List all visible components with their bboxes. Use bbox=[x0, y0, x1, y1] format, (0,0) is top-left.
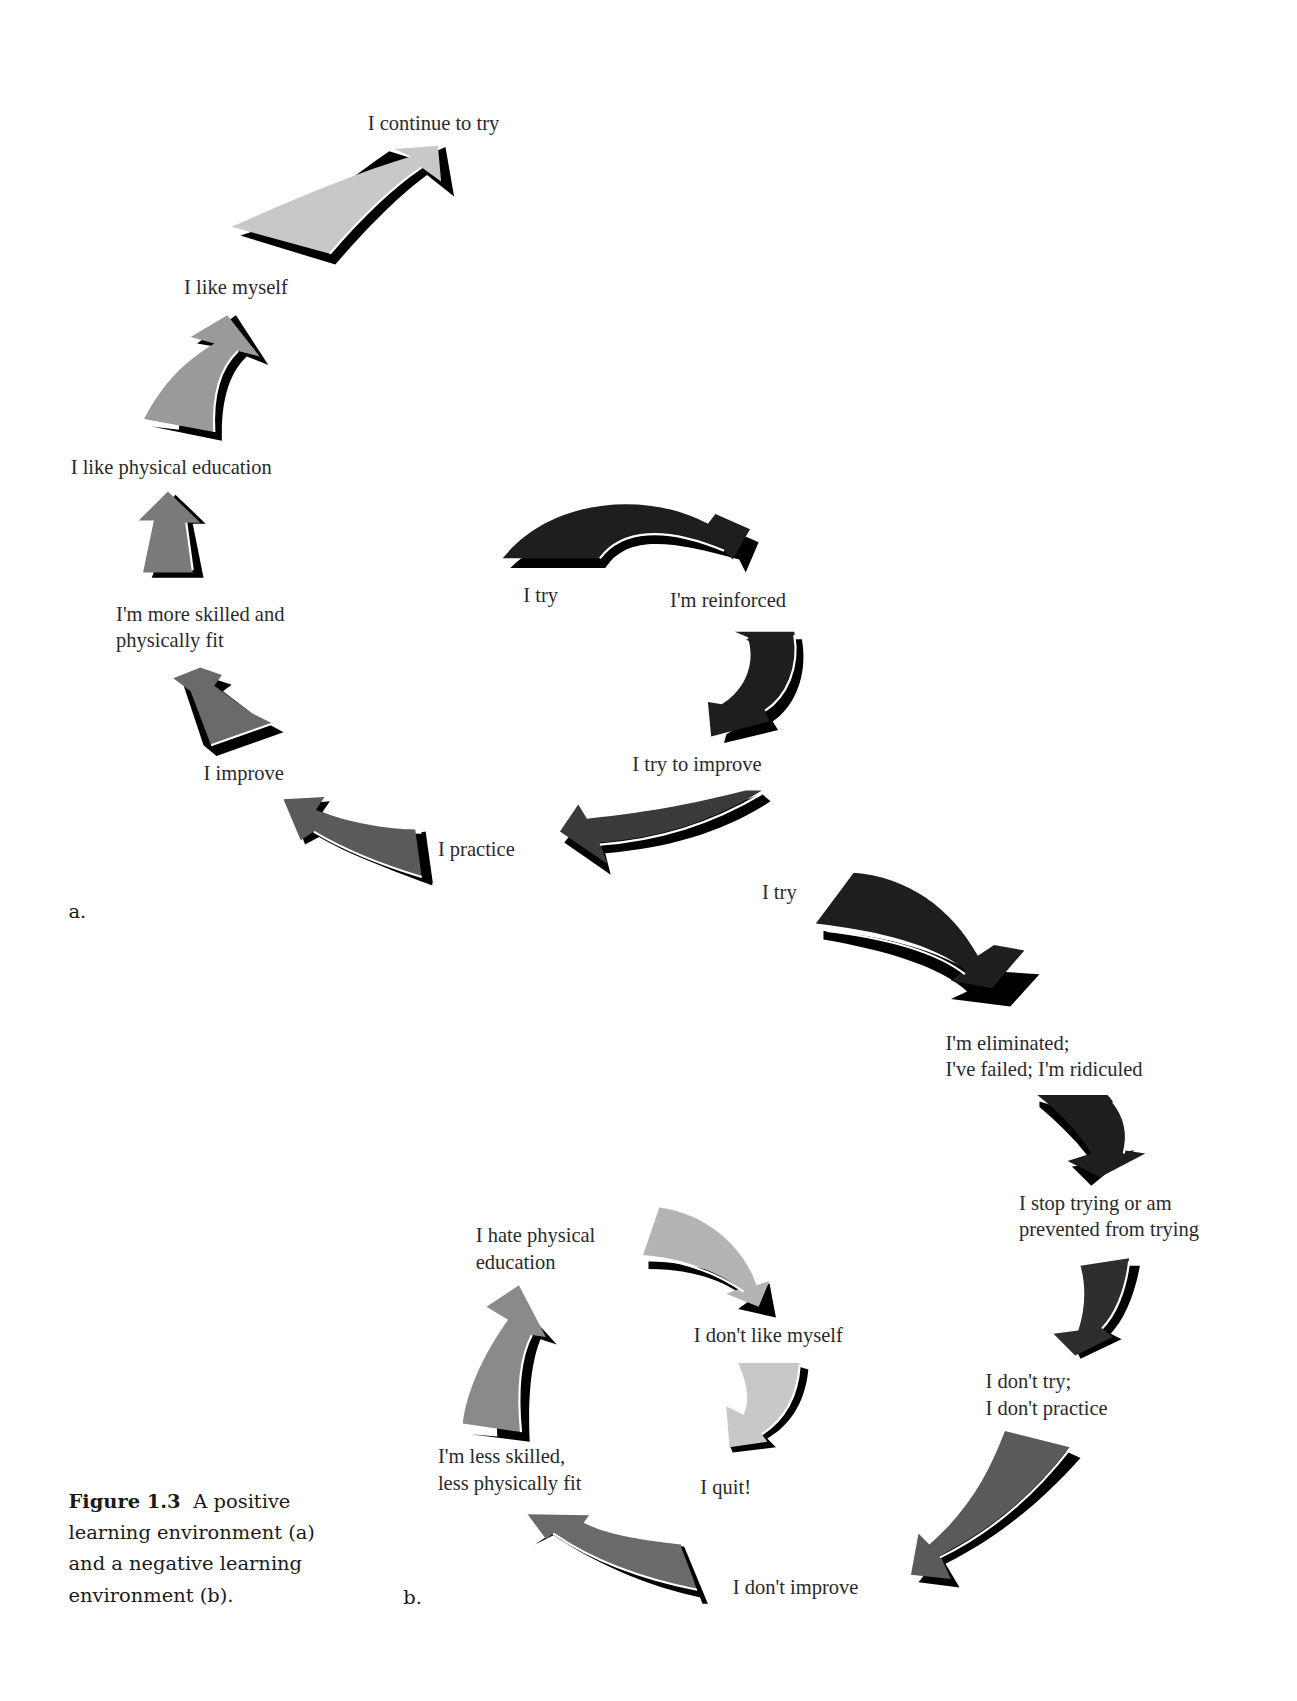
label-a-like-pe: I like physical education bbox=[71, 456, 272, 479]
figure-number: Figure 1.3 bbox=[69, 1490, 181, 1513]
label-b-stop-1: I stop trying or am bbox=[1019, 1192, 1172, 1215]
label-b-less-skilled-2: less physically fit bbox=[438, 1472, 582, 1495]
arrow-try-improve-to-practice bbox=[560, 791, 771, 875]
arrow-like-myself-to-continue bbox=[232, 146, 454, 265]
label-b-dont-try-1: I don't try; bbox=[985, 1370, 1071, 1393]
arrow-improve-to-skilled bbox=[173, 667, 283, 756]
panel-b: I try I'm eliminated; I've failed; I'm r… bbox=[403, 873, 1199, 1609]
arrow-stop-to-dont-try bbox=[1054, 1258, 1140, 1358]
label-a-like-myself: I like myself bbox=[184, 276, 288, 299]
label-b-dont-improve: I don't improve bbox=[733, 1576, 859, 1599]
arrow-dont-improve-to-less-skilled bbox=[528, 1514, 708, 1604]
arrow-try-to-reinforced bbox=[503, 504, 759, 572]
label-b-less-skilled-1: I'm less skilled, bbox=[438, 1445, 565, 1467]
label-b-dont-like-myself: I don't like myself bbox=[694, 1324, 843, 1347]
arrow-like-pe-to-like-myself bbox=[144, 315, 268, 440]
arrow-try-to-eliminated bbox=[816, 873, 1040, 1007]
arrow-less-skilled-to-hate-pe bbox=[463, 1285, 557, 1442]
arrow-practice-to-improve bbox=[283, 797, 432, 886]
caption-line-4: environment (b). bbox=[69, 1584, 234, 1607]
label-a-try-to-improve: I try to improve bbox=[632, 753, 761, 776]
label-a-improve: I improve bbox=[204, 762, 284, 785]
arrow-eliminated-to-stop bbox=[1037, 1095, 1145, 1186]
label-a-try: I try bbox=[523, 584, 558, 607]
label-b-eliminated-2: I've failed; I'm ridiculed bbox=[946, 1058, 1143, 1080]
panel-a: I continue to try I like myself I like p… bbox=[69, 112, 804, 923]
arrow-reinforced-to-try-improve bbox=[708, 632, 804, 743]
label-b-stop-2: prevented from trying bbox=[1019, 1218, 1199, 1241]
label-a-more-skilled-2: physically fit bbox=[116, 629, 224, 652]
caption-text-1: A positive bbox=[192, 1490, 290, 1513]
label-b-hate-pe-2: education bbox=[476, 1251, 556, 1273]
figure-1-3: I continue to try I like myself I like p… bbox=[0, 0, 1297, 1701]
label-b-quit: I quit! bbox=[700, 1476, 751, 1499]
label-b-eliminated-1: I'm eliminated; bbox=[946, 1032, 1070, 1054]
label-a-practice: I practice bbox=[438, 838, 515, 861]
panel-a-letter: a. bbox=[69, 900, 87, 923]
label-a-reinforced: I'm reinforced bbox=[670, 589, 786, 611]
label-b-hate-pe-1: I hate physical bbox=[476, 1224, 596, 1247]
arrow-dont-like-to-quit bbox=[726, 1363, 808, 1453]
label-b-dont-try-2: I don't practice bbox=[985, 1397, 1107, 1420]
caption-line-3: and a negative learning bbox=[69, 1552, 303, 1575]
label-b-try: I try bbox=[762, 881, 797, 904]
figure-caption: Figure 1.3 A positive learning environme… bbox=[69, 1490, 315, 1607]
arrow-skilled-to-like-pe bbox=[139, 491, 206, 577]
arrow-hate-pe-to-dont-like bbox=[643, 1207, 776, 1317]
caption-line-1: Figure 1.3 A positive bbox=[69, 1490, 291, 1513]
arrow-dont-try-to-dont-improve bbox=[911, 1431, 1081, 1588]
label-a-more-skilled-1: I'm more skilled and bbox=[116, 603, 284, 625]
label-a-continue: I continue to try bbox=[368, 112, 500, 135]
caption-line-2: learning environment (a) bbox=[69, 1521, 315, 1544]
panel-b-letter: b. bbox=[403, 1586, 422, 1609]
cycle-diagram: I continue to try I like myself I like p… bbox=[0, 0, 1297, 1701]
